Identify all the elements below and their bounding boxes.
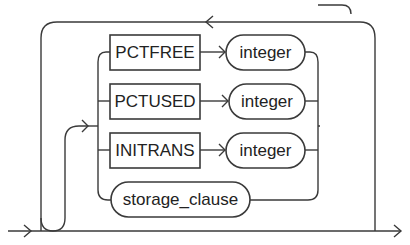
row-storage-clause: storage_clause (111, 182, 250, 217)
nonterminal-storage-clause: storage_clause (123, 190, 238, 209)
main-track (8, 225, 401, 237)
entry-branch (41, 120, 88, 231)
choice-left-rail (88, 52, 112, 200)
keyword-pctfree: PCTFREE (115, 43, 194, 62)
keyword-pctused: PCTUSED (114, 92, 195, 111)
row-initrans: INITRANS integer (110, 133, 305, 168)
nonterminal-integer-3: integer (240, 141, 292, 160)
row-pctused: PCTUSED integer (110, 84, 305, 119)
nonterminal-integer-2: integer (241, 92, 293, 111)
syntax-diagram: PCTFREE integer PCTUSED integer INITRANS… (0, 0, 410, 245)
keyword-initrans: INITRANS (115, 141, 194, 160)
exit-branch (318, 5, 351, 126)
row-pctfree: PCTFREE integer (110, 35, 305, 70)
nonterminal-integer-1: integer (240, 43, 292, 62)
